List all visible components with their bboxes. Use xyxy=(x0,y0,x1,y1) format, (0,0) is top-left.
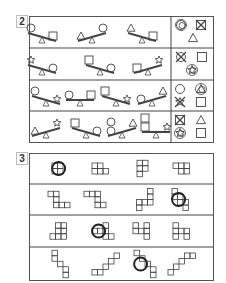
triangle-icon xyxy=(31,127,39,134)
grid-cell xyxy=(84,191,90,197)
grid-cell xyxy=(137,160,143,166)
grid-cell xyxy=(90,191,96,197)
grid-cell xyxy=(48,191,54,197)
grid-cell xyxy=(92,163,98,169)
grid-cell xyxy=(95,191,101,197)
triangle-icon xyxy=(77,32,85,39)
grid-cell xyxy=(190,253,196,259)
square-icon xyxy=(141,123,149,131)
circle-icon xyxy=(99,24,107,32)
triangle-icon xyxy=(127,24,135,31)
grid-cell xyxy=(59,202,65,208)
grid-cell xyxy=(58,261,64,267)
grid-cell xyxy=(184,163,190,169)
grid-cell xyxy=(179,259,185,265)
grid-cell xyxy=(143,166,149,172)
grid-cell xyxy=(137,200,143,206)
grid-cell xyxy=(148,194,154,200)
grid-cell xyxy=(52,256,58,262)
grid-cell xyxy=(98,169,104,175)
worksheet-drawing xyxy=(0,0,226,283)
circle-icon xyxy=(176,85,185,94)
star-icon xyxy=(27,56,35,63)
grid-cell xyxy=(54,202,60,208)
grid-cell xyxy=(56,228,62,234)
triangle-icon xyxy=(197,116,206,124)
square-icon xyxy=(85,56,93,64)
grid-cell xyxy=(144,223,150,229)
grid-cell xyxy=(114,253,120,259)
grid-cell xyxy=(65,202,71,208)
grid-cell xyxy=(139,228,145,234)
square-icon xyxy=(87,91,95,99)
grid-cell xyxy=(95,202,101,208)
star-icon xyxy=(163,123,171,130)
grid-cell xyxy=(179,163,185,169)
grid-cell xyxy=(61,234,67,240)
grid-cell xyxy=(137,171,143,177)
circle-icon xyxy=(107,118,115,126)
grid-cell xyxy=(54,197,60,203)
grid-cell xyxy=(151,272,157,278)
grid-cell xyxy=(101,202,107,208)
circle-icon xyxy=(107,64,115,72)
star-icon xyxy=(53,119,61,126)
square-icon xyxy=(71,119,79,127)
circle-icon xyxy=(65,91,73,99)
grid-cell xyxy=(137,166,143,172)
grid-cell xyxy=(179,169,185,175)
grid-cell xyxy=(103,264,109,270)
triangle-icon xyxy=(189,34,198,42)
grid-cell xyxy=(56,234,62,240)
triangle-icon xyxy=(159,87,167,94)
triangle-icon xyxy=(129,119,137,126)
grid-cell xyxy=(133,223,139,229)
grid-cell xyxy=(103,169,109,175)
grid-cell xyxy=(98,163,104,169)
grid-cell xyxy=(98,228,104,234)
grid-cell xyxy=(92,169,98,175)
grid-cell xyxy=(173,234,179,240)
circle-icon xyxy=(31,87,39,95)
grid-cell xyxy=(109,234,115,240)
grid-cell xyxy=(184,169,190,175)
star-icon xyxy=(123,95,131,102)
grid-cell xyxy=(173,163,179,169)
grid-cell xyxy=(134,250,140,256)
grid-cell xyxy=(179,228,185,234)
circle-icon xyxy=(93,127,101,135)
grid-cell xyxy=(144,234,150,240)
grid-cell xyxy=(148,200,154,206)
grid-cell xyxy=(142,200,148,206)
square-icon xyxy=(197,98,206,107)
circle-icon xyxy=(137,95,145,103)
star-icon xyxy=(155,56,163,63)
grid-cell xyxy=(63,272,69,278)
grid-cell xyxy=(143,160,149,166)
grid-cell xyxy=(173,228,179,234)
grid-cell xyxy=(137,205,143,211)
grid-cell xyxy=(173,223,179,229)
circle-icon xyxy=(49,64,57,72)
grid-cell xyxy=(98,270,104,276)
grid-cell xyxy=(184,234,190,240)
grid-cell xyxy=(133,228,139,234)
square-icon xyxy=(101,87,109,95)
grid-cell xyxy=(174,264,180,270)
grid-cell xyxy=(144,228,150,234)
grid-cell xyxy=(54,191,60,197)
grid-cell xyxy=(184,228,190,234)
grid-cell xyxy=(61,228,67,234)
square-icon xyxy=(198,53,207,62)
square-icon xyxy=(141,114,149,122)
circle-icon xyxy=(27,24,35,32)
square-icon xyxy=(197,129,206,138)
grid-cell xyxy=(63,267,69,273)
grid-cell xyxy=(185,253,191,259)
grid-cell xyxy=(52,250,58,256)
star-icon xyxy=(53,95,61,102)
answer-circle-mark xyxy=(179,23,185,29)
grid-cell xyxy=(148,189,154,195)
circle-icon xyxy=(107,127,115,135)
grid-cell xyxy=(183,205,189,211)
